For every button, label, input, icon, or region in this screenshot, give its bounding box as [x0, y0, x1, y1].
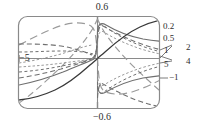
curve-0p5-mirror [98, 84, 177, 110]
curve-label-5: 5 [164, 60, 169, 69]
plot-canvas [0, 0, 204, 128]
curve-2-mirror-left [19, 45, 92, 63]
curve-label-0p5: 0.5 [163, 34, 174, 43]
x-axis-min-label: −5 [19, 53, 30, 63]
curve-label-4: 4 [186, 57, 191, 66]
figure-panel: 0.6 −0.6 −5 0.2 0.5 1 2 5 4 −1 [0, 0, 204, 128]
curve-label-2: 2 [186, 43, 191, 52]
curve-1-mirror-left [19, 51, 93, 54]
plot-frame [19, 17, 160, 109]
y-axis-max-label: 0.6 [0, 2, 204, 12]
curve-label-0p2: 0.2 [163, 22, 174, 31]
y-axis-min-label: −0.6 [0, 112, 204, 122]
curve-label-neg1: −1 [169, 73, 179, 82]
curve-label-1: 1 [164, 46, 169, 55]
curve-0p5-mirror-left [19, 44, 92, 55]
